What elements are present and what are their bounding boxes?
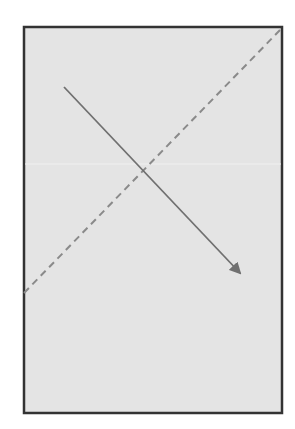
diagram-canvas <box>0 0 295 429</box>
bounding-rectangle <box>24 27 282 413</box>
diagram-svg <box>0 0 295 429</box>
